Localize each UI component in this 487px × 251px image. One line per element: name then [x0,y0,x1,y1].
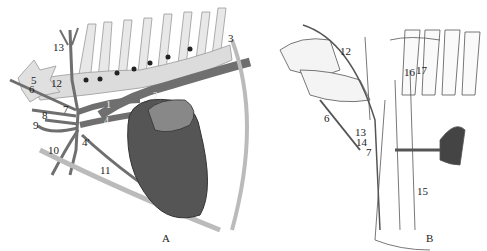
label-7: 7 [63,104,69,115]
label-b-7: 7 [366,147,372,158]
label-4: 4 [104,116,109,126]
label-b-17: 17 [416,65,427,76]
panel-b-caption: B [426,232,433,244]
label-2: 2 [153,91,158,101]
label-11: 11 [100,165,111,176]
label-4-prime: 4' [82,137,89,148]
label-10: 10 [48,145,59,156]
panel-b-drawing [280,25,480,250]
label-b-6: 6 [324,113,330,124]
vertical-trunk [70,30,78,175]
label-8: 8 [42,110,48,121]
label-9: 9 [33,120,39,131]
figure-canvas [0,0,487,251]
label-b-12: 12 [340,46,351,57]
label-3: 3 [228,33,234,44]
label-13: 13 [53,42,64,53]
panel-a-caption: A [162,232,170,244]
label-1: 1 [106,100,111,110]
label-b-16: 16 [404,67,415,78]
label-b-15: 15 [417,186,428,197]
label-12: 12 [51,78,62,89]
label-6: 6 [29,84,35,95]
